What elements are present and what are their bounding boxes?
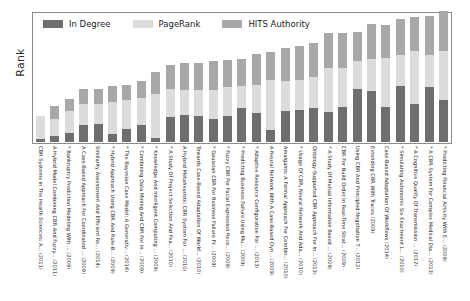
x-tick-label: * A Cognitive Quality Of Transmission ..… [413, 146, 418, 266]
x-tick-slot: Using CBR And Principled Negotiation T..… [353, 146, 362, 298]
stacked-bar[interactable] [252, 54, 261, 142]
bar-segment [237, 59, 246, 86]
bar-segment [295, 46, 304, 80]
stacked-bar[interactable] [367, 24, 376, 142]
stacked-bar[interactable] [396, 19, 405, 142]
x-tick-label: * Bankruptcy Prediction Modeling With ..… [66, 146, 71, 269]
bar-segment [425, 55, 434, 88]
x-tick-label: * A CBR System For Complex Medical Dia..… [427, 146, 432, 275]
bar-segment [65, 99, 74, 111]
stacked-bar[interactable] [223, 60, 232, 142]
x-tick-slot: * Gaussian CBR For Business Failure Pr..… [208, 146, 217, 298]
bar-segment [166, 89, 175, 118]
x-tick-slot: Extending CBR With Traces (2009) [367, 146, 376, 298]
x-tick-slot: * The Bayesian Case Model: A Generativ..… [122, 146, 131, 298]
bar-segment [410, 104, 419, 142]
stacked-bar[interactable] [122, 85, 131, 142]
bar-segment [209, 90, 218, 119]
bar-segment [425, 87, 434, 142]
x-tick-slot: * Fuzzy CBR For Facial Expression Reco..… [223, 146, 232, 298]
bar-segment [50, 106, 59, 119]
bar-segment [194, 90, 203, 116]
stacked-bar[interactable] [439, 11, 448, 142]
bar-segment [50, 119, 59, 136]
stacked-bar[interactable] [338, 33, 347, 142]
x-tick-label: * A Study Of Project Selection And Fea..… [167, 146, 172, 267]
x-tick-label: Similarity Assessment And Efficient Re..… [95, 146, 100, 268]
bar-segment [252, 54, 261, 85]
x-tick-label: * A Study Of Mutual Information Based ..… [326, 146, 331, 270]
x-tick-slot: Towards Case-Based Adaptation Of Workf..… [194, 146, 203, 298]
bar-segment [396, 19, 405, 55]
stacked-bar[interactable] [194, 63, 203, 142]
bar-segment [65, 133, 74, 142]
bar-segment [137, 81, 146, 98]
stacked-bar[interactable] [79, 89, 88, 142]
bar-segment [410, 17, 419, 51]
bar-segment [151, 94, 160, 138]
bar-segment [353, 89, 362, 142]
x-tick-label: * Simulating Autonomic Six Enactment L..… [398, 146, 403, 273]
bar-segment [122, 129, 131, 142]
x-tick-slot: Amalgams: A Formal Approach For Combin..… [281, 146, 290, 298]
bar-segment [79, 125, 88, 142]
bar-segment [65, 111, 74, 133]
x-tick-label: * Predicting Financial Activity With E..… [442, 146, 447, 262]
bar-segment [180, 115, 189, 142]
stacked-bar[interactable] [295, 46, 304, 142]
x-tick-label: * Usage Of CBR, Neural Network And Ada..… [297, 146, 302, 275]
stacked-bar[interactable] [108, 86, 117, 142]
x-tick-slot: * Hybrid Approach Using CBR And Rule-B..… [107, 146, 116, 298]
stacked-bar[interactable] [151, 72, 160, 142]
stacked-bar[interactable] [309, 43, 318, 142]
bar-segment [367, 59, 376, 92]
stacked-bar[interactable] [166, 65, 175, 142]
bar-segment [79, 104, 88, 125]
bar-series-container [34, 12, 450, 142]
stacked-bar[interactable] [353, 32, 362, 142]
bar-segment [338, 33, 347, 68]
bar-segment [180, 90, 189, 115]
bar-segment [295, 110, 304, 143]
bar-segment [194, 63, 203, 90]
stacked-bar[interactable] [50, 106, 59, 142]
x-tick-slot: * Adaptive Resource Configuration For ..… [252, 146, 261, 298]
stacked-bar[interactable] [266, 52, 275, 142]
bar-segment [122, 85, 131, 101]
stacked-bar[interactable] [410, 17, 419, 142]
x-tick-slot: * Predicting Business Failure Using Mu..… [237, 146, 246, 298]
stacked-bar[interactable] [94, 89, 103, 142]
stacked-bar[interactable] [237, 59, 246, 142]
stacked-bar[interactable] [180, 63, 189, 142]
stacked-bar[interactable] [65, 99, 74, 142]
x-tick-label: * Predicting Business Failure Using Mu..… [239, 146, 244, 267]
bar-segment [36, 139, 45, 142]
x-tick-slot: A Hybrid Model Combining CBR And Fuzzy..… [49, 146, 58, 298]
stacked-bar[interactable] [137, 81, 146, 142]
stacked-bar[interactable] [425, 16, 434, 142]
x-tick-slot: * Combining Data Mining And CBR For In..… [136, 146, 145, 298]
x-tick-label: Amalgams: A Formal Approach For Combin..… [283, 146, 288, 279]
y-axis-title: Rank [14, 23, 27, 103]
bar-segment [367, 24, 376, 59]
stacked-bar[interactable] [281, 48, 290, 142]
x-tick-slot: * A CBR System For Complex Medical Dia..… [425, 146, 434, 298]
x-tick-slot: * A Study Of Mutual Information Based ..… [324, 146, 333, 298]
x-tick-label: * Knowledge And Intelligent Computing ..… [153, 146, 158, 272]
bar-segment [223, 60, 232, 87]
bar-segment [338, 107, 347, 142]
stacked-bar[interactable] [324, 33, 333, 142]
stacked-bar[interactable] [381, 25, 390, 142]
bar-segment [309, 108, 318, 142]
bar-segment [309, 43, 318, 77]
x-axis-tick-labels: CBR Systems In The Health Sciences: A...… [32, 146, 452, 298]
stacked-bar[interactable] [209, 61, 218, 142]
x-tick-slot: * Predicting Financial Activity With E..… [440, 146, 449, 298]
x-tick-slot: Ontology-Supported CBR Approach For In..… [310, 146, 319, 298]
bar-segment [266, 80, 275, 131]
bar-segment [381, 107, 390, 142]
bar-segment [281, 48, 290, 81]
stacked-bar[interactable] [36, 116, 45, 142]
bar-segment [122, 100, 131, 129]
bar-segment [79, 89, 88, 105]
